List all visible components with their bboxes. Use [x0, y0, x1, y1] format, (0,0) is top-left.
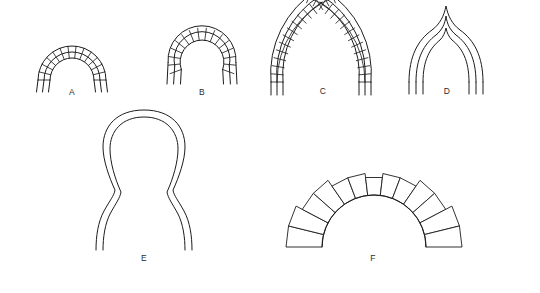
arch-types-plate: A B C D E F — [0, 0, 540, 293]
arch-b-rings — [167, 26, 237, 84]
voussoir-joint — [223, 70, 234, 74]
figure-a-semicircular-arch — [37, 46, 108, 92]
voussoir-joint — [85, 52, 92, 62]
figure-label-c: C — [313, 86, 333, 96]
voussoir-joint — [210, 30, 215, 41]
voussoir-joint — [189, 30, 194, 41]
figure-f-stepped-extrados-arch — [286, 174, 462, 247]
arch-a-rings — [37, 46, 108, 92]
voussoir-joint — [205, 28, 207, 40]
arch-diagram-canvas — [0, 0, 540, 293]
arch-f-voussoir-blocks — [286, 174, 462, 247]
figure-label-d: D — [437, 86, 457, 96]
arch-a-voussoir-joints — [38, 46, 106, 80]
voussoir-block — [366, 178, 383, 196]
arch-c-rings — [271, 0, 372, 95]
voussoir-joint — [224, 64, 236, 65]
voussoir-ring-line — [277, 0, 333, 82]
figure-c-pointed-lancet-arch — [271, 0, 372, 95]
voussoir-joint — [168, 64, 180, 65]
voussoir-joint — [170, 70, 181, 74]
figure-label-b: B — [192, 87, 212, 97]
figure-b-horseshoe-arch — [167, 26, 237, 84]
voussoir-ring-line — [309, 0, 365, 82]
figure-e-keel-onion-arch — [96, 110, 192, 250]
voussoir-joint — [42, 64, 53, 70]
figure-d-ogee-arch — [409, 6, 483, 94]
voussoir-joint — [53, 52, 60, 62]
figure-label-a: A — [62, 87, 82, 97]
figure-label-f: F — [363, 253, 383, 263]
voussoir-joint — [91, 64, 102, 70]
figure-label-e: E — [134, 253, 154, 263]
arch-c-voussoir-joints — [271, 0, 371, 82]
voussoir-joint — [198, 28, 200, 40]
